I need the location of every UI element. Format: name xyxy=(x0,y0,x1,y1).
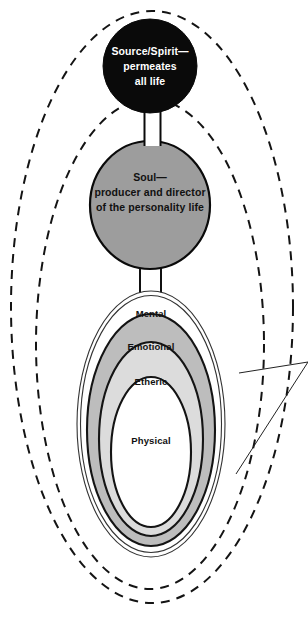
source-spirit-label-line-3: all life xyxy=(135,75,166,87)
esoteric-constitution-diagram: Source/Spirit— permeates all life Soul— … xyxy=(0,0,308,618)
source-spirit-label-line-1: Source/Spirit— xyxy=(111,45,189,57)
physical-body-ellipse xyxy=(111,377,191,527)
physical-body-label: Physical xyxy=(131,435,170,446)
soul-label-line-2: producer and director xyxy=(94,186,205,198)
mental-body-label: Mental xyxy=(136,308,167,319)
emotional-body-label: Emotional xyxy=(128,341,175,352)
etheric-body-label: Etheric xyxy=(135,376,168,387)
soul-label-line-1: Soul— xyxy=(133,171,167,183)
soul-label-line-3: of the personality life xyxy=(96,201,204,213)
source-spirit-label-line-2: permeates xyxy=(123,60,176,72)
leader-line-lower xyxy=(236,362,308,474)
leader-line-upper xyxy=(239,362,308,373)
diagram-canvas: Source/Spirit— permeates all life Soul— … xyxy=(0,0,308,618)
